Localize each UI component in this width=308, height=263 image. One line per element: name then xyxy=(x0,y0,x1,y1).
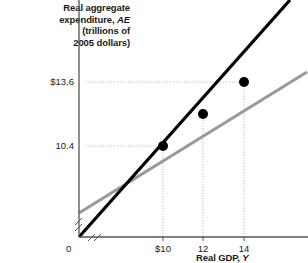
data-point xyxy=(198,109,208,119)
data-point xyxy=(158,141,168,151)
series-line-aggregate-expenditure xyxy=(79,0,290,237)
series-line-reference xyxy=(79,72,307,213)
plot-canvas xyxy=(0,0,308,263)
x-axis-title: Real GDP, Y xyxy=(196,252,308,263)
x-axis-title-prefix: Real GDP, xyxy=(196,252,242,263)
y-tick-label-13-6: $13.6 xyxy=(8,76,74,87)
origin-label: 0 xyxy=(66,243,71,254)
x-tick-label-10: $10 xyxy=(143,243,183,254)
chart-figure: Real aggregate expenditure, AE (trillion… xyxy=(0,0,308,263)
y-tick-label-10-4: 10.4 xyxy=(8,140,74,151)
x-axis-title-italic-token: Y xyxy=(242,252,248,263)
data-point xyxy=(239,77,249,87)
